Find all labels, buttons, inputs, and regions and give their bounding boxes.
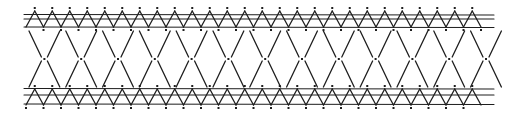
band-rail — [24, 104, 494, 105]
zigzag-stroke — [394, 89, 403, 105]
node-dot — [393, 29, 395, 31]
node-dot — [358, 107, 360, 109]
node-dot — [366, 85, 368, 87]
lattice-stroke — [305, 61, 317, 87]
node-dot — [113, 29, 115, 31]
node-dot — [428, 107, 430, 109]
lattice-stroke — [158, 61, 170, 87]
lattice-stroke — [231, 61, 243, 87]
zigzag-stroke — [280, 89, 289, 105]
zigzag-stroke — [87, 89, 96, 105]
zigzag-stroke — [315, 89, 324, 105]
node-dot — [288, 29, 290, 31]
zigzag-stroke — [472, 89, 481, 105]
lattice-stroke — [103, 31, 115, 57]
node-dot — [34, 85, 36, 87]
node-dot — [165, 107, 167, 109]
node-dot — [445, 107, 447, 109]
node-dot — [156, 85, 158, 87]
node-dot — [209, 85, 211, 87]
lattice-stroke — [176, 31, 188, 57]
node-dot — [174, 7, 176, 9]
lattice-stroke — [434, 61, 446, 87]
zigzag-stroke — [79, 89, 88, 105]
node-dot — [113, 107, 115, 109]
node-dot — [448, 58, 450, 60]
node-dot — [43, 58, 45, 60]
node-dot — [410, 29, 412, 31]
node-dot — [218, 107, 220, 109]
lattice-stroke — [195, 31, 207, 57]
lattice-stroke — [342, 31, 354, 57]
node-dot — [139, 7, 141, 9]
lattice-stroke — [139, 31, 151, 57]
zigzag-stroke — [411, 89, 420, 105]
node-dot — [183, 29, 185, 31]
node-dot — [148, 107, 150, 109]
node-dot — [226, 85, 228, 87]
lattice-stroke — [195, 61, 207, 87]
lattice-stroke — [250, 61, 262, 87]
lattice-stroke — [415, 31, 427, 57]
node-dot — [174, 85, 176, 87]
lattice-stroke — [360, 31, 372, 57]
lattice-stroke — [213, 31, 225, 57]
node-dot — [375, 107, 377, 109]
lattice-stroke — [29, 61, 41, 87]
node-dot — [121, 85, 123, 87]
node-dot — [156, 7, 158, 9]
lattice-stroke — [47, 31, 59, 57]
node-dot — [471, 7, 473, 9]
zigzag-stroke — [464, 89, 473, 105]
node-dot — [95, 107, 97, 109]
zigzag-stroke — [385, 89, 394, 105]
node-dot — [235, 107, 237, 109]
node-dot — [148, 29, 150, 31]
zigzag-stroke — [289, 89, 298, 105]
lattice-stroke — [489, 31, 501, 57]
zigzag-stroke — [236, 89, 245, 105]
lattice-stroke — [287, 31, 299, 57]
band-rail — [24, 15, 494, 16]
node-dot — [485, 58, 487, 60]
zigzag-stroke — [359, 89, 368, 105]
lattice-stroke — [360, 61, 372, 87]
node-dot — [401, 85, 403, 87]
node-dot — [358, 29, 360, 31]
node-dot — [288, 107, 290, 109]
node-dot — [226, 7, 228, 9]
zigzag-stroke — [429, 89, 438, 105]
node-dot — [130, 29, 132, 31]
node-dot — [264, 58, 266, 60]
node-dot — [375, 29, 377, 31]
zigzag-stroke — [44, 89, 53, 105]
lattice-stroke — [268, 31, 280, 57]
lattice-stroke — [139, 61, 151, 87]
node-dot — [253, 107, 255, 109]
node-dot — [419, 7, 421, 9]
zigzag-stroke — [201, 89, 210, 105]
lattice-stroke — [471, 61, 483, 87]
zigzag-stroke — [245, 89, 254, 105]
lattice-stroke — [176, 61, 188, 87]
lattice-stroke — [250, 31, 262, 57]
node-dot — [78, 29, 80, 31]
lattice-stroke — [415, 61, 427, 87]
zigzag-stroke — [297, 89, 306, 105]
node-dot — [130, 107, 132, 109]
lattice-stroke — [66, 61, 78, 87]
band-rail — [24, 89, 494, 90]
node-dot — [191, 7, 193, 9]
node-dot — [69, 85, 71, 87]
zigzag-stroke — [350, 89, 359, 105]
node-dot — [218, 29, 220, 31]
node-dot — [384, 7, 386, 9]
zigzag-stroke — [26, 89, 35, 105]
lattice-stroke — [471, 31, 483, 57]
node-dot — [305, 29, 307, 31]
node-dot — [279, 7, 281, 9]
zigzag-stroke — [131, 89, 140, 105]
zigzag-stroke — [166, 89, 175, 105]
node-dot — [86, 85, 88, 87]
lattice-stroke — [84, 61, 96, 87]
